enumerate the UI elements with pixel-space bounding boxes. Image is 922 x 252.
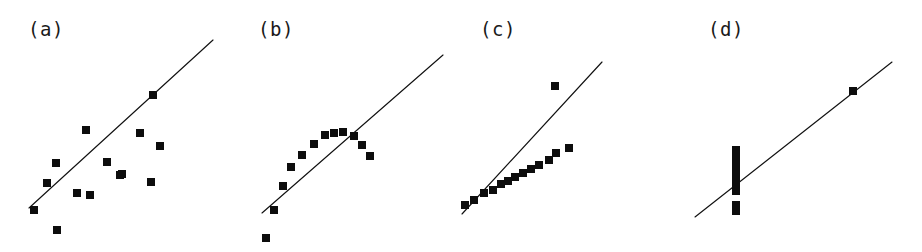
scatter-panel-b: (b) — [230, 0, 460, 252]
data-point-marker — [136, 129, 144, 137]
data-point-marker — [565, 144, 573, 152]
data-point-marker — [43, 179, 51, 187]
data-point-marker — [551, 82, 559, 90]
data-point-marker — [330, 129, 338, 137]
data-point-marker — [86, 191, 94, 199]
data-point-marker — [732, 153, 740, 161]
data-point-marker — [552, 149, 560, 157]
data-point-marker — [52, 159, 60, 167]
data-point-marker — [298, 151, 306, 159]
data-point-marker — [321, 131, 329, 139]
data-point-marker — [527, 165, 535, 173]
data-point-marker — [535, 161, 543, 169]
data-point-marker — [732, 168, 740, 176]
data-point-marker — [732, 175, 740, 183]
plot-area — [0, 0, 230, 252]
data-point-marker — [147, 178, 155, 186]
data-point-marker — [350, 132, 358, 140]
data-point-marker — [118, 170, 126, 178]
data-point-marker — [358, 141, 366, 149]
data-point-marker — [149, 91, 157, 99]
data-point-marker — [849, 87, 857, 95]
data-point-marker — [366, 152, 374, 160]
data-point-marker — [732, 160, 740, 168]
data-point-marker — [732, 207, 740, 215]
plot-area — [452, 0, 682, 252]
scatter-panel-c: (c) — [452, 0, 682, 252]
data-point-marker — [339, 128, 347, 136]
data-point-marker — [73, 189, 81, 197]
data-point-marker — [732, 146, 740, 154]
scatter-panel-a: (a) — [0, 0, 230, 252]
data-point-marker — [732, 187, 740, 195]
data-point-marker — [270, 206, 278, 214]
data-point-marker — [504, 177, 512, 185]
data-point-marker — [262, 234, 270, 242]
data-point-marker — [497, 180, 505, 188]
regression-line — [29, 40, 213, 208]
scatter-panel-d: (d) — [690, 0, 920, 252]
data-point-marker — [470, 196, 478, 204]
data-point-marker — [156, 142, 164, 150]
data-point-marker — [287, 163, 295, 171]
data-point-marker — [310, 140, 318, 148]
data-point-marker — [82, 126, 90, 134]
data-point-marker — [30, 206, 38, 214]
plot-area — [690, 0, 920, 252]
data-point-marker — [545, 156, 553, 164]
data-point-marker — [279, 182, 287, 190]
anscombe-quartet-figure: (a)(b)(c)(d) — [0, 0, 922, 252]
data-point-marker — [489, 186, 497, 194]
plot-area — [230, 0, 460, 252]
data-point-marker — [103, 158, 111, 166]
data-point-marker — [53, 226, 61, 234]
regression-line — [695, 62, 892, 217]
data-point-marker — [511, 173, 519, 181]
data-point-marker — [519, 169, 527, 177]
data-point-marker — [461, 201, 469, 209]
data-point-marker — [480, 189, 488, 197]
